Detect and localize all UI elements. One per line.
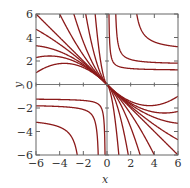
y-tick-label: −6 bbox=[17, 149, 33, 162]
x-tick-label: 2 bbox=[127, 157, 134, 170]
solution-curve bbox=[36, 0, 107, 85]
x-tick-labels: −6−4−20246 bbox=[28, 157, 182, 170]
y-tick-label: −4 bbox=[17, 126, 33, 139]
y-tick-label: 2 bbox=[26, 55, 33, 68]
solution-curve bbox=[107, 85, 178, 124]
y-tick-label: −2 bbox=[17, 102, 33, 115]
x-tick-label: −4 bbox=[52, 157, 68, 170]
y-tick-label: 6 bbox=[26, 8, 33, 21]
x-tick-label: 4 bbox=[151, 157, 158, 170]
solution-curve bbox=[36, 106, 100, 187]
solution-curve bbox=[131, 0, 178, 47]
chart: −6−4−20246 −6−4−20246 x y bbox=[0, 0, 190, 187]
solution-curve bbox=[36, 99, 106, 187]
solution-curve bbox=[36, 46, 107, 85]
y-axis-label: y bbox=[12, 81, 25, 89]
x-tick-label: −2 bbox=[75, 157, 91, 170]
y-tick-label: 0 bbox=[26, 79, 33, 92]
solution-curve bbox=[114, 0, 178, 63]
y-tick-label: 4 bbox=[26, 32, 33, 45]
x-tick-label: 0 bbox=[104, 157, 111, 170]
x-axis-label: x bbox=[102, 173, 109, 186]
solution-curve bbox=[108, 0, 178, 70]
solution-curve bbox=[107, 85, 178, 188]
x-tick-label: 6 bbox=[175, 157, 182, 170]
